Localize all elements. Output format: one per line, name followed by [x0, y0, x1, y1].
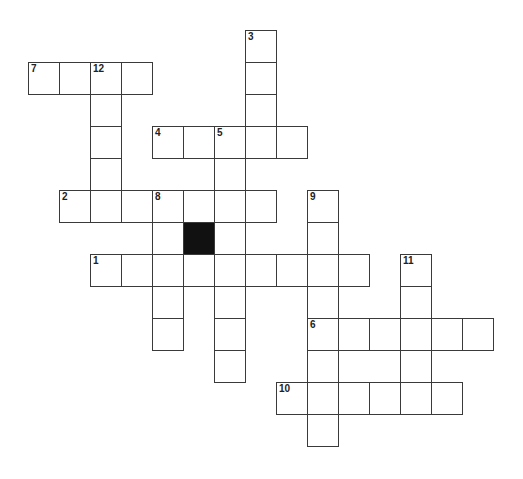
- crossword-cell[interactable]: [369, 318, 401, 351]
- crossword-cell[interactable]: 9: [307, 190, 339, 223]
- crossword-cell[interactable]: [276, 254, 308, 287]
- crossword-cell[interactable]: 8: [152, 190, 184, 223]
- crossword-cell[interactable]: 7: [28, 62, 60, 95]
- crossword-cell[interactable]: [400, 350, 432, 383]
- crossword-grid: 128345671291011: [0, 0, 523, 479]
- crossword-cell[interactable]: [431, 318, 463, 351]
- clue-number: 6: [310, 320, 316, 330]
- crossword-cell[interactable]: [369, 382, 401, 415]
- clue-number: 2: [62, 192, 68, 202]
- crossword-cell[interactable]: [431, 382, 463, 415]
- crossword-cell[interactable]: [307, 222, 339, 255]
- crossword-cell[interactable]: [90, 190, 122, 223]
- crossword-cell[interactable]: [214, 350, 246, 383]
- crossword-cell[interactable]: [152, 286, 184, 319]
- crossword-cell[interactable]: 1: [90, 254, 122, 287]
- crossword-cell[interactable]: [400, 286, 432, 319]
- crossword-cell[interactable]: [152, 254, 184, 287]
- crossword-cell[interactable]: [307, 382, 339, 415]
- clue-number: 8: [155, 192, 161, 202]
- crossword-cell[interactable]: [307, 286, 339, 319]
- crossword-cell[interactable]: [121, 62, 153, 95]
- clue-number: 9: [310, 192, 316, 202]
- clue-number: 12: [93, 64, 104, 74]
- crossword-cell[interactable]: [338, 318, 370, 351]
- crossword-cell[interactable]: [338, 382, 370, 415]
- crossword-cell[interactable]: 10: [276, 382, 308, 415]
- crossword-cell[interactable]: [245, 254, 277, 287]
- clue-number: 3: [248, 32, 254, 42]
- crossword-cell[interactable]: [214, 158, 246, 191]
- crossword-cell[interactable]: [307, 414, 339, 447]
- crossword-cell[interactable]: [245, 62, 277, 95]
- clue-number: 5: [217, 128, 223, 138]
- crossword-cell[interactable]: [90, 158, 122, 191]
- clue-number: 10: [279, 384, 290, 394]
- crossword-cell[interactable]: [400, 318, 432, 351]
- crossword-cell[interactable]: [214, 222, 246, 255]
- crossword-cell[interactable]: [90, 94, 122, 127]
- clue-number: 11: [403, 256, 414, 266]
- crossword-cell[interactable]: [59, 62, 91, 95]
- crossword-cell[interactable]: [400, 382, 432, 415]
- crossword-cell[interactable]: [121, 254, 153, 287]
- crossword-cell[interactable]: [121, 190, 153, 223]
- crossword-cell[interactable]: 4: [152, 126, 184, 159]
- crossword-cell[interactable]: [307, 350, 339, 383]
- crossword-cell[interactable]: 6: [307, 318, 339, 351]
- crossword-cell[interactable]: [183, 254, 215, 287]
- crossword-cell[interactable]: [152, 318, 184, 351]
- crossword-cell[interactable]: 5: [214, 126, 246, 159]
- crossword-cell[interactable]: [183, 126, 215, 159]
- crossword-cell[interactable]: [307, 254, 339, 287]
- crossword-cell[interactable]: 3: [245, 30, 277, 63]
- clue-number: 1: [93, 256, 99, 266]
- crossword-cell[interactable]: [183, 190, 215, 223]
- crossword-cell[interactable]: [214, 254, 246, 287]
- crossword-cell[interactable]: [338, 254, 370, 287]
- crossword-cell[interactable]: [214, 318, 246, 351]
- crossword-cell[interactable]: [90, 126, 122, 159]
- crossword-cell[interactable]: [245, 94, 277, 127]
- crossword-cell[interactable]: [276, 126, 308, 159]
- crossword-cell[interactable]: 2: [59, 190, 91, 223]
- clue-number: 7: [31, 64, 37, 74]
- crossword-cell[interactable]: [245, 126, 277, 159]
- crossword-cell[interactable]: 11: [400, 254, 432, 287]
- crossword-cell[interactable]: [214, 190, 246, 223]
- crossword-cell[interactable]: 12: [90, 62, 122, 95]
- crossword-cell[interactable]: [245, 190, 277, 223]
- crossword-cell[interactable]: [462, 318, 494, 351]
- clue-number: 4: [155, 128, 161, 138]
- crossword-cell[interactable]: [152, 222, 184, 255]
- crossword-cell[interactable]: [214, 286, 246, 319]
- black-cell: [183, 222, 215, 255]
